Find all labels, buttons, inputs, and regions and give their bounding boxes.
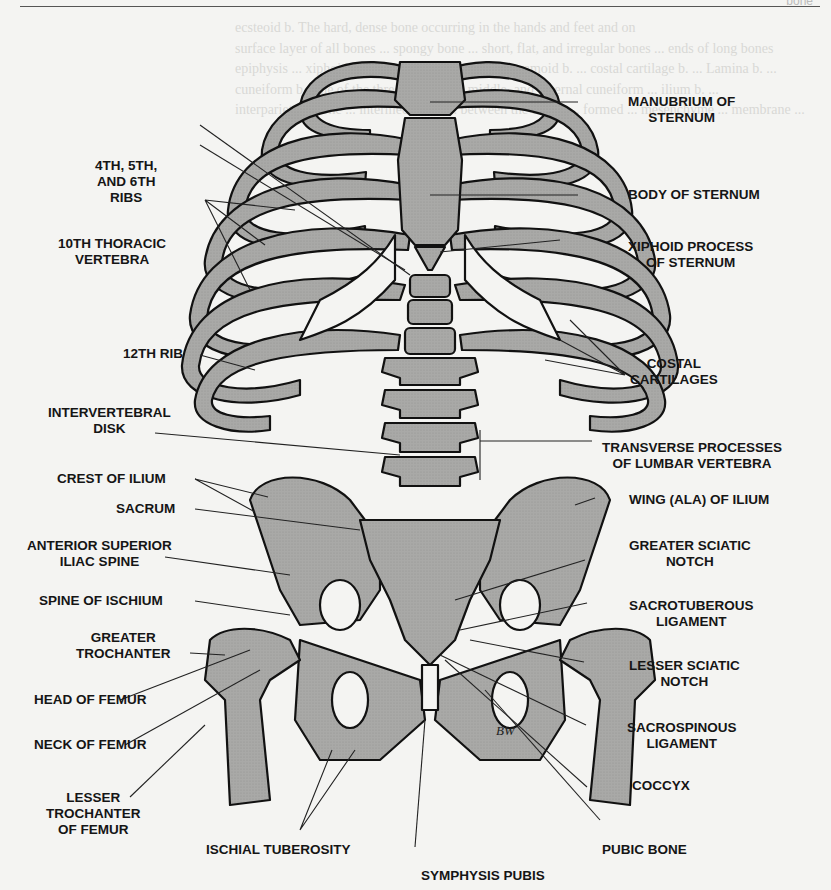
label-costal-cartilages: COSTALCARTILAGES — [630, 356, 718, 388]
label-sacrospinous-ligament: SACROSPINOUSLIGAMENT — [627, 720, 737, 752]
artist-signature: BW — [496, 723, 516, 738]
label-xiphoid-process: XIPHOID PROCESSOF STERNUM — [628, 239, 753, 271]
label-head-of-femur: HEAD OF FEMUR — [34, 692, 147, 708]
label-intervertebral-disk: INTERVERTEBRALDISK — [48, 405, 171, 437]
label-crest-of-ilium: CREST OF ILIUM — [57, 471, 166, 487]
label-sacrotuberous-ligament: SACROTUBEROUSLIGAMENT — [629, 598, 754, 630]
label-12th-rib: 12TH RIB — [123, 346, 183, 362]
label-greater-trochanter: GREATERTROCHANTER — [76, 630, 171, 662]
label-greater-sciatic-notch: GREATER SCIATICNOTCH — [629, 538, 751, 570]
label-lesser-sciatic-notch: LESSER SCIATICNOTCH — [629, 658, 740, 690]
label-transverse-processes: TRANSVERSE PROCESSESOF LUMBAR VERTEBRA — [602, 440, 782, 472]
label-sacrum: SACRUM — [116, 501, 175, 517]
manubrium-shape — [395, 62, 465, 115]
rib-cage-left — [182, 62, 415, 431]
label-spine-of-ischium: SPINE OF ISCHIUM — [39, 593, 163, 609]
label-coccyx: COCCYX — [632, 778, 690, 794]
obturator-right — [500, 580, 540, 630]
xiphoid-shape — [415, 247, 445, 270]
label-body-of-sternum: BODY OF STERNUM — [628, 187, 760, 203]
obturator-left — [320, 580, 360, 630]
label-anterior-superior-iliac-spine: ANTERIOR SUPERIORILIAC SPINE — [27, 538, 172, 570]
label-10th-thoracic-vertebra: 10TH THORACICVERTEBRA — [58, 236, 166, 268]
label-wing-of-ilium: WING (ALA) OF ILIUM — [629, 492, 769, 508]
label-neck-of-femur: NECK OF FEMUR — [34, 737, 147, 753]
label-ischial-tuberosity: ISCHIAL TUBEROSITY — [206, 842, 351, 858]
label-symphysis-pubis: SYMPHYSIS PUBIS — [421, 868, 545, 884]
label-pubic-bone: PUBIC BONE — [602, 842, 687, 858]
symphysis-shape — [422, 665, 438, 710]
sternum-body-shape — [398, 118, 462, 245]
label-lesser-trochanter-of-femur: LESSERTROCHANTEROF FEMUR — [46, 790, 141, 838]
label-ribs-4-5-6: 4TH, 5TH,AND 6THRIBS — [95, 158, 157, 206]
label-manubrium-of-sternum: MANUBRIUM OFSTERNUM — [628, 94, 735, 126]
